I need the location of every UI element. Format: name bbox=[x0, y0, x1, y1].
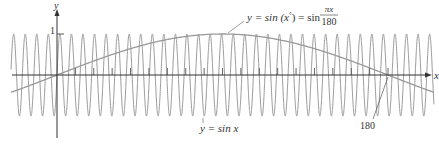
x-ticks-layer bbox=[75, 68, 388, 75]
y-tick-label-1: 1 bbox=[50, 25, 55, 36]
x-axis-arrow-icon bbox=[425, 73, 432, 78]
sine-comparison-chart: y x 1 y = sin (x°) = sin πx 180 y = sin … bbox=[0, 0, 439, 150]
fast-curve-prefix: y = sin bbox=[199, 122, 233, 134]
slow-curve-denominator: 180 bbox=[322, 16, 337, 27]
slow-curve-numerator: πx bbox=[325, 4, 334, 14]
slow-curve-lhs: y = sin ( bbox=[246, 11, 285, 24]
x-axis-label: x bbox=[433, 69, 439, 81]
fast-curve-label: y = sin x bbox=[199, 122, 238, 134]
annotation-180: 180 bbox=[360, 120, 375, 131]
slow-curve-mid: ) = sin bbox=[292, 11, 321, 24]
slow-curve-label: y = sin (x°) = sin bbox=[246, 11, 320, 24]
fast-curve-var: x bbox=[232, 122, 238, 134]
slow-curve-leader bbox=[228, 21, 244, 33]
y-axis-label: y bbox=[53, 0, 59, 11]
